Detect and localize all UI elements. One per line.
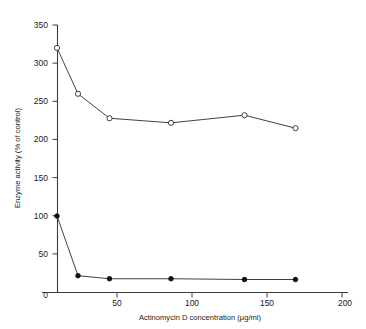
y-tick-label-350: 350 xyxy=(34,20,48,30)
x-tick-label-100: 100 xyxy=(185,298,199,308)
data-point xyxy=(75,91,80,96)
series-open-circle-series xyxy=(54,45,298,130)
x-tick-label-200: 200 xyxy=(338,298,352,308)
y-tick-label-50: 50 xyxy=(39,249,49,259)
data-point xyxy=(107,116,112,121)
x-tick-label-150: 150 xyxy=(260,298,274,308)
series-line xyxy=(57,48,296,128)
data-point xyxy=(293,126,298,131)
y-tick-label-150: 150 xyxy=(34,173,48,183)
data-point xyxy=(76,273,81,278)
y-tick-label-100: 100 xyxy=(34,211,48,221)
series-line xyxy=(57,216,296,279)
x-axis-group: 50 100 150 200 Actinomycin D concentrati… xyxy=(42,293,352,323)
data-point xyxy=(293,277,298,282)
data-point xyxy=(242,277,247,282)
x-tick-marks xyxy=(117,293,342,298)
y-tick-marks xyxy=(53,25,58,254)
y-tick-label-0: 0 xyxy=(43,290,48,300)
y-axis-group: 350 300 250 200 150 100 50 0 Enzyme acti… xyxy=(13,20,58,300)
data-point xyxy=(168,120,173,125)
chart-container: 350 300 250 200 150 100 50 0 Enzyme acti… xyxy=(0,0,366,329)
data-point xyxy=(54,45,59,50)
y-tick-label-300: 300 xyxy=(34,58,48,68)
data-point xyxy=(55,214,60,219)
x-axis-title: Actinomycin D concentration (µg/ml) xyxy=(139,313,262,322)
series-layer xyxy=(54,45,298,281)
chart-svg: 350 300 250 200 150 100 50 0 Enzyme acti… xyxy=(0,0,366,329)
plot-area: 350 300 250 200 150 100 50 0 Enzyme acti… xyxy=(0,0,366,329)
series-filled-circle-series xyxy=(55,214,298,282)
data-point xyxy=(107,276,112,281)
y-tick-label-200: 200 xyxy=(34,134,48,144)
data-point xyxy=(242,113,247,118)
y-axis-title: Enzyme activity (% of control) xyxy=(13,108,22,208)
x-tick-label-50: 50 xyxy=(112,298,122,308)
data-point xyxy=(169,276,174,281)
y-tick-label-250: 250 xyxy=(34,96,48,106)
